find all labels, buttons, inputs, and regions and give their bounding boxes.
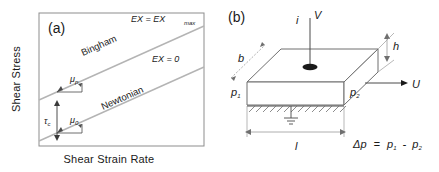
svg-text:EX = EX: EX = EX [131,14,166,24]
ground-hatching [249,106,346,112]
height-label: h [393,40,399,52]
panel-a-label: (a) [48,20,65,36]
electrode-contact-dot [303,64,318,70]
width-label: b [238,52,244,64]
figure-root: (a) EX = EX max EX = 0 Bingham Newtonian [0,0,439,172]
panel-a-canvas: (a) EX = EX max EX = 0 Bingham Newtonian [0,0,219,172]
svg-text:max: max [184,20,196,26]
newtonian-annotation: EX = 0 [152,54,179,64]
x-axis-label: Shear Strain Rate [64,153,155,165]
electrical-ground-icon [284,106,298,124]
pressure-in-label: p1 [230,86,240,99]
panel-b: (b) [219,0,439,172]
velocity-arrow [365,80,408,86]
length-label: l [295,140,298,152]
panel-b-canvas: (b) [219,0,439,172]
pressure-drop-equation: Δp = p1 - p2 [352,138,422,152]
panel-a: (a) EX = EX max EX = 0 Bingham Newtonian [0,0,219,172]
velocity-label: U [412,78,420,90]
voltage-label: V [314,9,323,21]
slab-front-face [247,82,344,105]
height-dimension [378,33,394,72]
y-axis-label: Shear Stress [10,46,22,112]
panel-b-label: (b) [228,9,245,25]
current-label: i [296,14,299,26]
length-dimension [245,106,346,137]
